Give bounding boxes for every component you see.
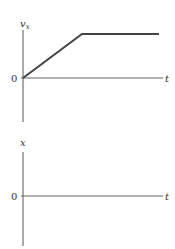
x-axis-label: x [20,137,26,148]
origin-label-top: 0 [11,73,17,84]
figure: vx 0 t x 0 t [0,0,175,249]
t-axis-label-top: t [165,73,170,84]
velocity-graph: vx 0 t [11,18,170,122]
t-axis-label-bottom: t [165,191,170,202]
position-graph: x 0 t [11,137,170,246]
vx-axis-label: vx [20,18,30,31]
origin-label-bottom: 0 [11,191,17,202]
velocity-curve [23,34,159,78]
